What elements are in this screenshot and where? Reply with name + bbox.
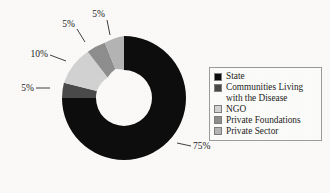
legend-label-ngo: NGO: [226, 104, 246, 115]
legend-item-communities[interactable]: Communities Living with the Disease: [214, 82, 318, 103]
legend-swatch-state: [214, 73, 222, 81]
chart-legend: State Communities Living with the Diseas…: [209, 67, 322, 141]
legend-item-private-foundations[interactable]: Private Foundations: [214, 115, 318, 126]
leader-line-private-sector: [107, 20, 110, 35]
leader-line-state: [177, 143, 191, 146]
data-label-state: 75%: [193, 141, 211, 151]
donut-chart-figure: 75% 5% 10% 5% 5% State Communities Livin…: [0, 0, 330, 193]
legend-label-state: State: [226, 71, 245, 82]
legend-item-ngo[interactable]: NGO: [214, 104, 318, 115]
legend-label-private-sector: Private Sector: [226, 126, 278, 137]
data-label-communities: 5%: [21, 83, 34, 93]
legend-swatch-communities: [214, 84, 222, 92]
legend-swatch-private-foundations: [214, 116, 222, 124]
leader-line-ngo: [50, 55, 66, 61]
legend-label-communities: Communities Living with the Disease: [226, 82, 303, 103]
data-label-private-foundations: 5%: [62, 19, 75, 29]
data-label-private-sector: 5%: [92, 9, 105, 19]
legend-item-state[interactable]: State: [214, 71, 318, 82]
leader-line-private-foundations: [77, 29, 85, 42]
legend-swatch-private-sector: [214, 127, 222, 135]
legend-label-private-foundations: Private Foundations: [226, 115, 301, 126]
legend-item-private-sector[interactable]: Private Sector: [214, 126, 318, 137]
data-label-ngo: 10%: [31, 49, 49, 59]
legend-swatch-ngo: [214, 105, 222, 113]
